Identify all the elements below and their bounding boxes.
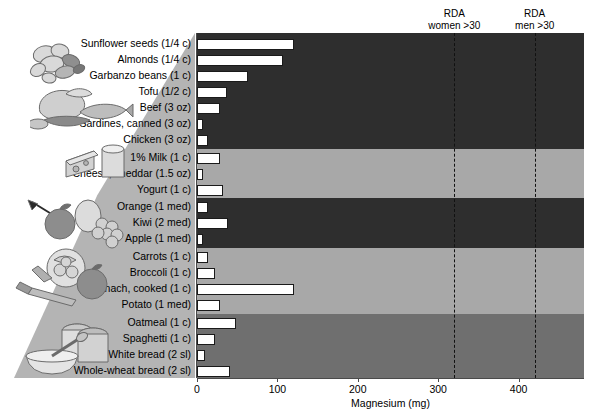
bar-whole-wheat-bread [197, 366, 230, 377]
x-axis-title: Magnesium (mg) [197, 397, 584, 409]
bar-broccoli [197, 268, 215, 279]
rda-women-caption-line2: women >30 [428, 20, 480, 32]
fruits-illustration [24, 198, 130, 250]
x-tick-label-200: 200 [349, 383, 367, 395]
x-tick-100 [277, 378, 278, 382]
x-tick-0 [197, 378, 198, 382]
bar-spaghetti [197, 334, 215, 345]
bar-sardines-canned [197, 119, 203, 130]
rda-men-caption: RDA men >30 [515, 8, 554, 31]
x-tick-label-0: 0 [194, 383, 200, 395]
label-kiwi: Kiwi (2 med) [133, 217, 191, 228]
label-yogurt: Yogurt (1 c) [137, 184, 191, 195]
label-potato: Potato (1 med) [122, 299, 191, 310]
label-beef: Beef (3 oz) [140, 102, 191, 113]
bar-orange [197, 202, 208, 213]
label-broccoli: Broccoli (1 c) [130, 267, 191, 278]
bar-spinach-cooked [197, 284, 294, 295]
bar-white-bread [197, 350, 205, 361]
x-tick-label-100: 100 [269, 383, 287, 395]
x-axis-line [197, 378, 584, 379]
x-tick-label-300: 300 [429, 383, 447, 395]
bar-chicken [197, 135, 208, 146]
x-tick-200 [358, 378, 359, 382]
x-tick-400 [519, 378, 520, 382]
bar-garbanzo-beans [197, 71, 248, 82]
bar-apple [197, 234, 203, 245]
rda-men-caption-line2: men >30 [515, 20, 554, 32]
vegetables-illustration [14, 248, 130, 310]
bar-kiwi [197, 218, 228, 229]
rda-women-line [454, 33, 455, 378]
x-tick-300 [438, 378, 439, 382]
rda-men-caption-line1: RDA [524, 8, 545, 19]
bar-potato [197, 300, 220, 311]
label-spaghetti: Spaghetti (1 c) [123, 333, 191, 344]
y-axis-line [196, 33, 197, 378]
bar-beef [197, 103, 220, 114]
bar-milk-1-percent [197, 153, 220, 164]
breads-and-cereal-illustration [22, 320, 128, 378]
label-milk-1-percent: 1% Milk (1 c) [130, 152, 191, 163]
bar-almonds [197, 55, 283, 66]
bar-tofu [197, 87, 227, 98]
bar-cheese-cheddar [197, 169, 203, 180]
bars-container [197, 33, 584, 378]
bar-yogurt [197, 185, 223, 196]
label-chicken: Chicken (3 oz) [123, 134, 191, 145]
magnesium-food-chart: Sunflower seeds (1/4 c) Almonds (1/4 c) … [0, 0, 601, 417]
plot-area [197, 33, 584, 378]
bar-carrots [197, 252, 208, 263]
nuts-and-seeds-illustration [22, 40, 106, 88]
rda-women-caption-line1: RDA [444, 8, 465, 19]
meat-and-fish-illustration [30, 82, 134, 134]
bar-sunflower-seeds [197, 39, 294, 50]
label-apple: Apple (1 med) [125, 233, 191, 244]
label-almonds: Almonds (1/4 c) [117, 54, 191, 65]
cheese-and-milk-illustration [62, 143, 132, 187]
rda-men-line [535, 33, 536, 378]
rda-women-caption: RDA women >30 [428, 8, 480, 31]
label-oatmeal: Oatmeal (1 c) [127, 317, 191, 328]
bar-oatmeal [197, 318, 236, 329]
label-tofu: Tofu (1/2 c) [138, 86, 191, 97]
x-tick-label-400: 400 [510, 383, 528, 395]
label-carrots: Carrots (1 c) [133, 251, 191, 262]
